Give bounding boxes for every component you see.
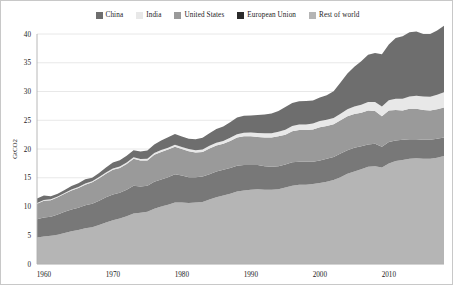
y-tick-label: 35 xyxy=(24,59,32,67)
y-tick-label: 10 xyxy=(24,203,32,211)
y-tick-label: 40 xyxy=(24,31,32,39)
x-tick-label: 1960 xyxy=(37,271,52,279)
x-tick-label: 2000 xyxy=(313,271,328,279)
x-tick-label: 2010 xyxy=(382,271,397,279)
stacked-area-chart: 0510152025303540196019701980199020002010… xyxy=(1,1,453,285)
y-axis-title: GtCO2 xyxy=(11,138,19,159)
y-tick-label: 20 xyxy=(24,146,32,154)
plot-area: 0510152025303540196019701980199020002010… xyxy=(1,1,453,285)
y-tick-label: 15 xyxy=(24,174,32,182)
x-tick-label: 1980 xyxy=(175,271,190,279)
y-tick-label: 25 xyxy=(24,117,32,125)
y-tick-label: 5 xyxy=(27,232,31,240)
y-tick-label: 30 xyxy=(24,88,32,96)
x-tick-label: 1990 xyxy=(244,271,259,279)
y-tick-label: 0 xyxy=(27,261,31,269)
chart-figure: ChinaIndiaUnited StatesEuropean UnionRes… xyxy=(0,0,453,285)
x-tick-label: 1970 xyxy=(106,271,121,279)
